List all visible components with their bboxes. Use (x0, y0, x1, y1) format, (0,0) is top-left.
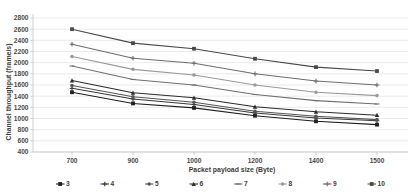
series-8-point-1400 (314, 90, 318, 94)
legend-swatch-marker-8 (281, 182, 285, 186)
legend-item-5[interactable]: 5 (143, 179, 171, 191)
y-tick-label-1400: 1400 (14, 93, 29, 100)
legend-label-4: 4 (111, 180, 115, 187)
y-tick-label-2400: 2400 (14, 37, 29, 44)
series-8-point-1000 (192, 73, 196, 77)
legend-label-9: 9 (333, 180, 337, 187)
x-tick-label-1000: 1000 (187, 157, 202, 164)
legend-label-5: 5 (155, 180, 159, 187)
legend-item-8[interactable]: 8 (277, 179, 305, 191)
series-10-point-900 (131, 41, 135, 45)
legend-item-4[interactable]: 4 (99, 179, 127, 191)
series-3-point-700 (70, 90, 74, 94)
y-tick-label-2800: 2800 (14, 14, 29, 21)
legend-label-6: 6 (200, 180, 204, 187)
legend-label-10: 10 (378, 180, 386, 187)
legend-item-3[interactable]: 3 (54, 179, 82, 191)
y-tick-label-2000: 2000 (14, 59, 29, 66)
x-axis-title: Packet payload size (Byte) (189, 166, 276, 174)
y-tick-label-1800: 1800 (14, 70, 29, 77)
series-8-point-700 (70, 55, 74, 59)
legend-swatch-marker-5 (147, 182, 151, 186)
series-10-point-1400 (314, 65, 318, 69)
series-8-point-900 (131, 68, 135, 72)
y-axis-title: Channel throughput (frame/s) (5, 44, 13, 141)
series-10-point-1200 (253, 57, 257, 61)
y-tick-label-1600: 1600 (14, 81, 29, 88)
legend-label-7: 7 (244, 180, 248, 187)
series-5-point-1400 (314, 114, 318, 118)
series-5-point-900 (131, 95, 135, 99)
legend-label-3: 3 (66, 180, 70, 187)
x-tick-label-1200: 1200 (248, 157, 263, 164)
legend-item-7[interactable]: 7 (232, 179, 260, 191)
legend-label-8: 8 (289, 180, 293, 187)
series-5-point-1200 (253, 109, 257, 113)
legend-item-6[interactable]: 6 (188, 179, 216, 191)
series-10-point-1500 (375, 69, 379, 73)
y-tick-label-400: 400 (17, 148, 28, 155)
y-tick-label-800: 800 (17, 126, 28, 133)
legend-item-10[interactable]: 10 (366, 179, 394, 191)
y-tick-label-2200: 2200 (14, 48, 29, 55)
y-tick-label-1200: 1200 (14, 104, 29, 111)
series-8-point-1500 (375, 94, 379, 98)
series-10-point-1000 (192, 47, 196, 51)
x-tick-label-900: 900 (127, 157, 138, 164)
series-3-point-900 (131, 102, 135, 106)
y-tick-label-600: 600 (17, 137, 28, 144)
series-5-point-1500 (375, 118, 379, 122)
legend-swatch-marker-3 (58, 182, 62, 186)
series-8-point-1200 (253, 83, 257, 87)
series-3-point-1500 (375, 123, 379, 127)
x-tick-label-1500: 1500 (370, 157, 385, 164)
legend-swatch-marker-10 (370, 182, 374, 186)
chart-container: 4006008001000120014001600180020002200240… (0, 0, 415, 195)
x-tick-label-1400: 1400 (309, 157, 324, 164)
legend-item-9[interactable]: 9 (321, 179, 349, 191)
line-chart: 4006008001000120014001600180020002200240… (0, 0, 415, 195)
y-tick-label-1000: 1000 (14, 115, 29, 122)
series-5-point-700 (70, 84, 74, 88)
series-10-point-700 (70, 27, 74, 31)
y-tick-label-2600: 2600 (14, 26, 29, 33)
series-5-point-1000 (192, 101, 196, 105)
x-tick-label-700: 700 (66, 157, 77, 164)
